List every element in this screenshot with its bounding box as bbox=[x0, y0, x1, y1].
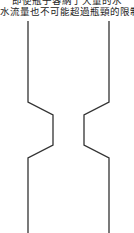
bottle-outline-icon bbox=[0, 0, 134, 233]
bottle-right-wall bbox=[84, 21, 109, 233]
bottle-left-wall bbox=[28, 21, 53, 233]
